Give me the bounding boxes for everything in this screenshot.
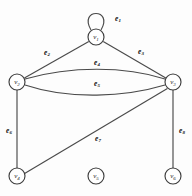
edge-label-e4: e4 — [94, 58, 100, 67]
edge-e7 — [25, 89, 168, 174]
edge-label-e5: e5 — [94, 79, 100, 88]
edge-label-e3: e3 — [138, 47, 144, 56]
graph-canvas: v1v2v3v4v5v6 e1e2e3e4e5e6e7e8 — [0, 0, 192, 196]
edge-label-e2: e2 — [44, 48, 50, 57]
edge-label-e1: e1 — [115, 14, 121, 23]
vertices-group: v1v2v3v4v5v6 — [9, 29, 181, 184]
edge-e1 — [88, 14, 104, 31]
edge-label-e6: e6 — [6, 126, 12, 135]
edge-label-e8: e8 — [179, 126, 185, 135]
edge-e3 — [103, 42, 166, 78]
edge-label-e7: e7 — [95, 134, 101, 143]
graph-diagram: v1v2v3v4v5v6 e1e2e3e4e5e6e7e8 — [0, 0, 192, 196]
